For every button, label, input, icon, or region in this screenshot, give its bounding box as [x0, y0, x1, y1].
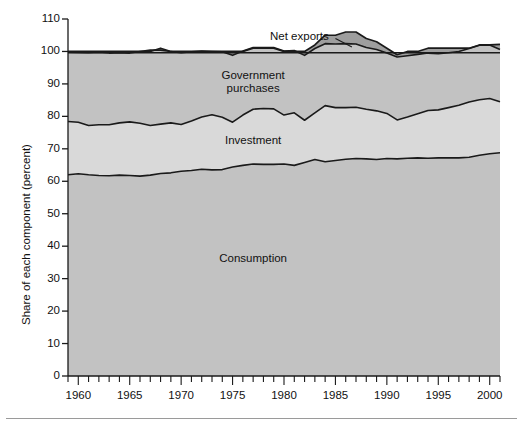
series-label-government-purchases: Governmentpurchases: [193, 69, 313, 95]
x-tick-label: 1985: [310, 389, 360, 401]
y-tick-label: 70: [20, 142, 60, 154]
series-label-investment: Investment: [193, 134, 313, 147]
y-tick-label: 80: [20, 109, 60, 121]
y-tick-label: 40: [20, 239, 60, 251]
chart-canvas: [0, 0, 523, 428]
x-tick-label: 1980: [259, 389, 309, 401]
figure-bottom-rule: [6, 418, 517, 419]
series-label-net-exports: Net exports: [239, 30, 359, 43]
x-tick-label: 1960: [53, 389, 103, 401]
series-label-consumption: Consumption: [193, 252, 313, 265]
x-tick-label: 1970: [156, 389, 206, 401]
y-tick-label: 100: [20, 44, 60, 56]
y-tick-label: 50: [20, 207, 60, 219]
y-axis-title: Share of each component (percent): [20, 144, 32, 325]
x-tick-label: 1990: [362, 389, 412, 401]
y-tick-label: 20: [20, 304, 60, 316]
x-tick-label: 1975: [208, 389, 258, 401]
x-tick-label: 1995: [413, 389, 463, 401]
y-tick-label: 30: [20, 272, 60, 284]
stacked-area-chart: Share of each component (percent) 010203…: [0, 0, 523, 428]
y-tick-label: 10: [20, 337, 60, 349]
y-tick-label: 60: [20, 174, 60, 186]
x-tick-label: 1965: [105, 389, 155, 401]
x-tick-label: 2000: [465, 389, 515, 401]
y-tick-label: 110: [20, 12, 60, 24]
y-tick-label: 0: [20, 369, 60, 381]
y-tick-label: 90: [20, 77, 60, 89]
